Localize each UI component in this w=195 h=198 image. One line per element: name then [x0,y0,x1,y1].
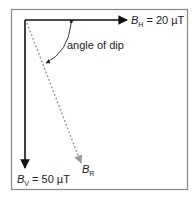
angle-of-dip-label: angle of dip [67,39,124,51]
diagram-frame [12,10,188,190]
horizontal-field-label: BH = 20 µT [131,14,185,28]
magnetic-field-diagram: angle of dip BH = 20 µT BV = 50 µT BR [0,0,195,198]
resultant-field-label: BR [82,163,94,177]
vertical-field-label: BV = 50 µT [17,173,70,187]
